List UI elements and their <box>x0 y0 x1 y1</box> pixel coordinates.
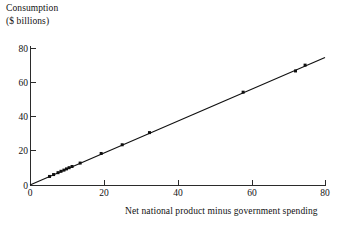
y-tick-label-20: 20 <box>2 146 28 156</box>
regression-line <box>30 57 325 185</box>
y-axis-title: Consumption ($ billions) <box>6 2 58 27</box>
y-tick-mark-40 <box>31 116 36 117</box>
data-point <box>148 131 151 134</box>
data-point <box>242 91 245 94</box>
data-point <box>65 167 68 170</box>
data-point <box>59 170 62 173</box>
data-point <box>294 69 297 72</box>
chart-figure: Consumption ($ billions) 80 60 40 20 0 0… <box>0 0 338 232</box>
x-tick-label-60: 60 <box>240 188 264 198</box>
y-tick-label-40: 40 <box>2 112 28 122</box>
data-point <box>121 143 124 146</box>
data-point <box>71 165 74 168</box>
x-tick-label-20: 20 <box>92 188 116 198</box>
y-tick-mark-20 <box>31 150 36 151</box>
x-axis-line <box>30 185 326 186</box>
data-point <box>68 166 71 169</box>
y-tick-label-60: 60 <box>2 78 28 88</box>
data-point <box>48 175 51 178</box>
data-point <box>304 64 307 67</box>
data-point <box>52 173 55 176</box>
x-tick-mark-80 <box>325 180 326 185</box>
y-axis-title-line-2: ($ billions) <box>6 15 58 28</box>
x-tick-label-80: 80 <box>313 188 337 198</box>
y-tick-label-80: 80 <box>2 44 28 54</box>
x-tick-mark-40 <box>178 180 179 185</box>
x-tick-mark-20 <box>104 180 105 185</box>
x-axis-title: Net national product minus government sp… <box>125 206 318 216</box>
data-point <box>100 152 103 155</box>
y-tick-mark-60 <box>31 82 36 83</box>
x-tick-label-0: 0 <box>18 188 42 198</box>
y-tick-mark-80 <box>31 48 36 49</box>
data-point <box>62 169 65 172</box>
y-axis-title-line-1: Consumption <box>6 2 58 15</box>
data-point <box>79 162 82 165</box>
data-point <box>57 171 60 174</box>
x-tick-label-40: 40 <box>166 188 190 198</box>
data-series <box>30 57 325 185</box>
x-tick-mark-60 <box>252 180 253 185</box>
